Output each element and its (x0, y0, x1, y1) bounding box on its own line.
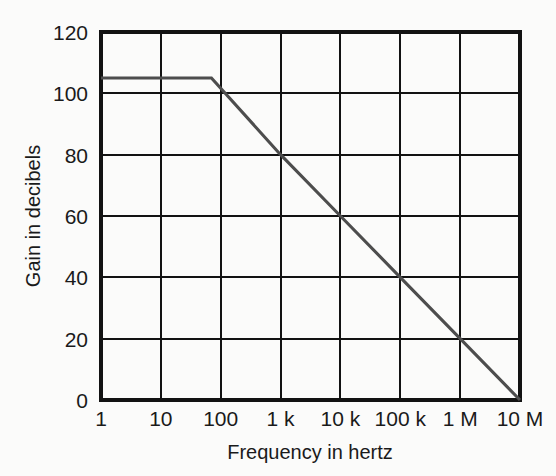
x-tick-label: 10 k (321, 407, 361, 430)
y-tick-label: 0 (76, 389, 88, 412)
x-tick-label: 1 (95, 407, 107, 430)
x-tick-label: 10 (149, 407, 172, 430)
x-tick-label: 100 k (375, 407, 427, 430)
x-tick-label: 100 (203, 407, 238, 430)
y-tick-label: 100 (53, 82, 88, 105)
y-tick-label: 20 (65, 328, 88, 351)
x-tick-label: 1 k (267, 407, 296, 430)
y-tick-label: 120 (53, 21, 88, 44)
y-tick-label: 40 (65, 266, 88, 289)
y-axis-title: Gain in decibels (22, 145, 44, 287)
y-tick-label: 60 (65, 205, 88, 228)
x-tick-label: 1 M (443, 407, 478, 430)
bode-plot-figure: 1101001 k10 k100 k1 M10 M 02040608010012… (0, 0, 556, 476)
x-axis-title: Frequency in hertz (227, 441, 393, 463)
chart-canvas: 1101001 k10 k100 k1 M10 M 02040608010012… (0, 0, 556, 476)
y-tick-label: 80 (65, 144, 88, 167)
x-tick-label: 10 M (497, 407, 544, 430)
